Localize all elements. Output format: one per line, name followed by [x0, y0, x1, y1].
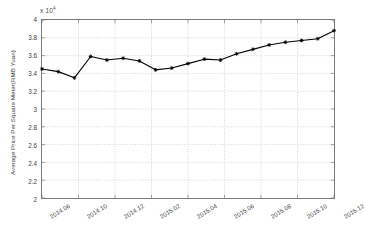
x-axis-tick-label: 2015.08: [269, 202, 292, 220]
data-point: [154, 68, 158, 72]
data-point: [170, 66, 174, 70]
y-axis-exponent-label: x 104: [40, 6, 56, 14]
data-point: [300, 39, 304, 43]
y-axis-tick-labels: 43.83.63.43.232.82.62.42.22: [0, 0, 37, 226]
x-axis-tick-label: 2014.10: [85, 202, 108, 220]
y-axis-exponent-base: x 10: [40, 7, 53, 14]
plot-area: [41, 19, 335, 199]
x-axis-tick-label: 2014.12: [122, 202, 145, 220]
data-point: [332, 29, 336, 33]
data-series-line: [42, 20, 334, 198]
data-point: [105, 58, 109, 62]
data-point: [267, 43, 271, 47]
data-point: [40, 67, 44, 71]
data-point: [219, 58, 223, 62]
y-axis-tick-label: 3.2: [28, 88, 37, 95]
y-axis-tick-label: 2.4: [28, 160, 37, 167]
y-axis-tick-label: 3.6: [28, 52, 37, 59]
y-axis-tick-label: 3.4: [28, 70, 37, 77]
data-point: [316, 37, 320, 41]
x-axis-tick-label: 2014.06: [48, 202, 71, 220]
data-point: [89, 55, 93, 59]
y-axis-tick-label: 4: [33, 16, 37, 23]
y-axis-tick-label: 2: [33, 196, 37, 203]
data-point: [235, 52, 239, 56]
x-axis-tick-label: 2015.10: [306, 202, 329, 220]
x-axis-tick-label: 2015.04: [195, 202, 218, 220]
y-axis-tick-label: 2.6: [28, 142, 37, 149]
data-point: [251, 47, 255, 51]
x-axis-tick-label: 2015.02: [159, 202, 182, 220]
x-axis-tick-label: 2015.12: [342, 202, 365, 220]
data-point: [56, 70, 60, 74]
y-axis-tick-label: 2.8: [28, 124, 37, 131]
y-axis-tick-label: 2.2: [28, 178, 37, 185]
data-point: [283, 40, 287, 44]
x-axis-tick-label: 2015.06: [232, 202, 255, 220]
y-axis-title: Average Price Per Square Meter(RMB Yuan): [9, 38, 16, 188]
y-axis-exponent-power: 4: [53, 6, 56, 11]
data-point: [186, 62, 190, 66]
data-point: [202, 57, 206, 61]
y-axis-tick-label: 3: [33, 106, 37, 113]
y-axis-tick-label: 3.8: [28, 34, 37, 41]
data-point: [73, 76, 77, 80]
data-point: [137, 59, 141, 63]
data-point: [121, 56, 125, 60]
